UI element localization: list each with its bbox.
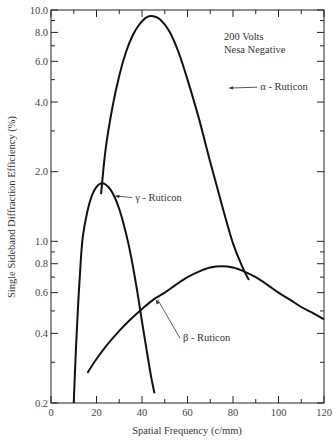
data-curves — [74, 16, 324, 403]
y-tick-label: 0.4 — [35, 328, 49, 339]
x-tick-label: 0 — [48, 407, 53, 418]
y-axis-title: Single Sideband Diffraction Efficiency (… — [6, 115, 18, 298]
curve-alpha-ruticon — [101, 16, 249, 280]
y-tick-label: 0.8 — [35, 258, 48, 269]
chart-axes — [51, 10, 324, 403]
x-tick-label: 80 — [228, 407, 239, 418]
annotation-voltage: 200 Volts — [224, 31, 264, 42]
series-labels: α - Ruticonβ - Ruticonγ - Ruticon — [115, 81, 309, 343]
curve-beta-ruticon — [87, 266, 324, 373]
y-tick-label: 2.0 — [35, 166, 48, 177]
y-tick-label: 1.0 — [35, 236, 48, 247]
y-tick-label: 0.2 — [35, 398, 48, 409]
curve-gamma-ruticon — [74, 183, 155, 403]
leader-alpha — [230, 87, 257, 88]
label-beta-ruticon: β - Ruticon — [183, 332, 231, 343]
y-tick-label: 4.0 — [35, 97, 48, 108]
y-tick-label: 10.0 — [30, 5, 48, 16]
label-gamma-ruticon: γ - Ruticon — [134, 192, 182, 203]
plot-frame — [51, 10, 324, 403]
y-tick-label: 0.6 — [35, 287, 48, 298]
x-axis-title: Spatial Frequency (c/mm) — [132, 425, 242, 437]
label-alpha-ruticon: α - Ruticon — [260, 81, 308, 92]
x-tick-label: 120 — [316, 407, 332, 418]
x-tick-label: 100 — [271, 407, 287, 418]
x-tick-label: 20 — [91, 407, 102, 418]
x-tick-label: 40 — [137, 407, 148, 418]
y-tick-label: 8.0 — [35, 27, 48, 38]
arrowhead-icon — [228, 86, 233, 89]
leader-beta — [158, 300, 180, 339]
annotation-nesa: Nesa Negative — [224, 44, 286, 55]
y-tick-label: 6.0 — [35, 56, 48, 67]
x-tick-label: 60 — [182, 407, 193, 418]
diffraction-efficiency-chart: 0204060801001200.20.40.60.81.02.04.06.08… — [0, 0, 335, 441]
